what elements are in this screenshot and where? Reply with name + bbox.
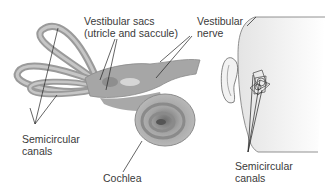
vestibule-illustration [85, 59, 200, 97]
cochlea-illustration [100, 92, 195, 146]
label-semicircular-canals-right: Semicircular canals [235, 160, 293, 184]
label-semicircular-left-line1: Semicircular [22, 133, 80, 145]
label-semicircular-canals-left: Semicircular canals [22, 133, 80, 157]
label-semicircular-right-line1: Semicircular [235, 160, 293, 172]
label-vestibular-sacs: Vestibular sacs (utricle and saccule) [84, 15, 178, 39]
ear-illustration [221, 58, 237, 103]
label-vestibular-nerve-line1: Vestibular [197, 15, 243, 27]
label-vestibular-nerve-line2: nerve [197, 27, 243, 39]
label-cochlea: Cochlea [103, 172, 142, 184]
label-semicircular-left-line2: canals [22, 145, 80, 157]
label-vestibular-nerve: Vestibular nerve [197, 15, 243, 39]
label-vestibular-sacs-line2: (utricle and saccule) [84, 27, 178, 39]
label-vestibular-sacs-line1: Vestibular sacs [84, 15, 178, 27]
label-semicircular-right-line2: canals [235, 172, 293, 184]
label-cochlea-text: Cochlea [103, 172, 142, 184]
